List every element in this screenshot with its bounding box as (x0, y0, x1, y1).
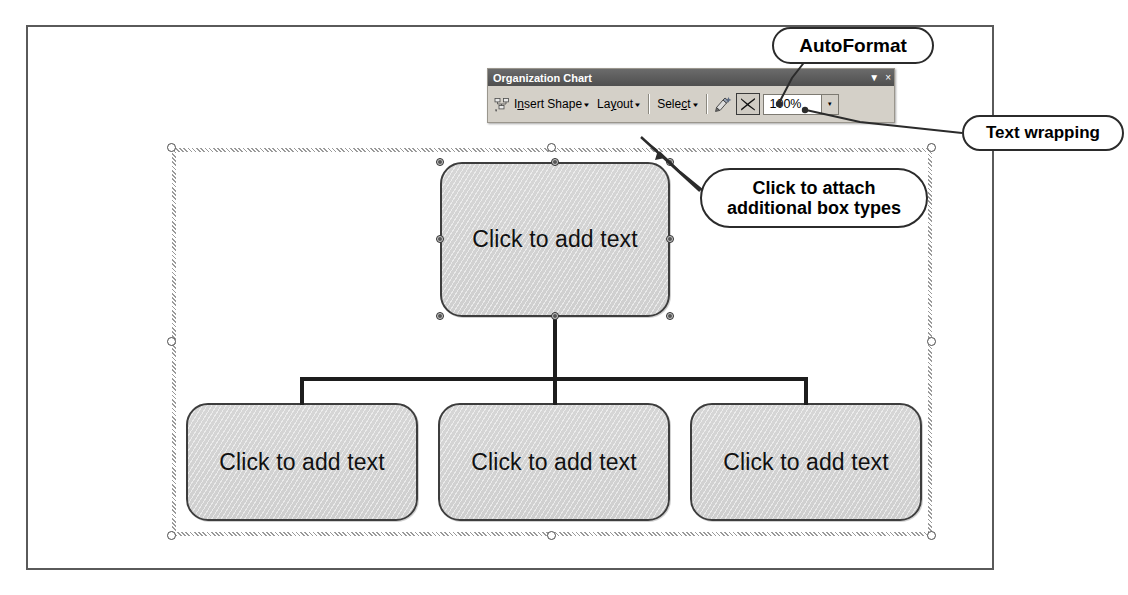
layout-button[interactable]: Layout ▾ (593, 91, 644, 117)
select-button[interactable]: Select ▾ (653, 91, 701, 117)
close-icon[interactable]: × (885, 73, 891, 83)
node-handle-middle-left[interactable] (436, 235, 444, 243)
frame-handle-bottom-right[interactable] (927, 531, 936, 540)
toolbar-buttons-row[interactable]: Insert Shape ▾ Layout ▾ Select ▾ (488, 86, 894, 122)
text-wrapping-icon (740, 97, 756, 111)
node-handle-bottom-right[interactable] (666, 312, 674, 320)
node-handle-bottom-left[interactable] (436, 312, 444, 320)
insert-shape-icon (494, 96, 511, 113)
connector-child-1-drop (553, 377, 557, 405)
org-node-child-1[interactable]: Click to add text (186, 403, 418, 521)
annotation-text-wrapping: Text wrapping (962, 115, 1124, 151)
autoformat-button[interactable] (711, 92, 736, 116)
org-node-child-1-label: Click to add text (219, 449, 384, 476)
node-handle-middle-right[interactable] (666, 235, 674, 243)
org-node-child-2[interactable]: Click to add text (438, 403, 670, 521)
connector-child-2-drop (804, 377, 808, 405)
toolbar-title: Organization Chart (493, 72, 863, 84)
connector-child-0-drop (300, 377, 304, 405)
frame-handle-top-center[interactable] (547, 143, 556, 152)
org-node-root-label: Click to add text (472, 226, 637, 253)
chevron-down-icon[interactable]: ▾ (693, 101, 699, 108)
toolbar-options-icon[interactable]: ▼ (869, 73, 879, 83)
zoom-value: 100% (764, 97, 821, 111)
annotation-attach-boxes: Click to attach additional box types (700, 168, 928, 228)
frame-handle-bottom-left[interactable] (167, 531, 176, 540)
frame-handle-middle-left[interactable] (167, 337, 176, 346)
frame-handle-top-left[interactable] (167, 143, 176, 152)
frame-handle-middle-right[interactable] (927, 337, 936, 346)
frame-handle-bottom-center[interactable] (547, 531, 556, 540)
organization-chart-toolbar[interactable]: Organization Chart ▼ × Insert Shape ▾ La… (487, 68, 895, 123)
zoom-combobox[interactable]: 100% ▾ (763, 94, 839, 115)
org-node-child-3[interactable]: Click to add text (690, 403, 922, 521)
chevron-down-icon[interactable]: ▾ (584, 101, 590, 108)
org-node-child-3-label: Click to add text (723, 449, 888, 476)
toolbar-separator (706, 94, 707, 114)
connector-root-vertical (553, 314, 557, 380)
autoformat-icon (714, 95, 733, 114)
insert-shape-label: Insert Shape (514, 97, 582, 111)
layout-label: Layout (597, 97, 633, 111)
text-wrapping-button[interactable] (736, 93, 760, 115)
chevron-down-icon[interactable]: ▾ (821, 95, 838, 114)
org-node-root[interactable]: Click to add text (440, 162, 670, 317)
select-label: Select (657, 97, 690, 111)
annotation-attach-line-2: additional box types (727, 198, 901, 218)
insert-shape-button[interactable]: Insert Shape ▾ (490, 91, 593, 117)
toolbar-separator (648, 94, 649, 114)
org-node-child-2-label: Click to add text (471, 449, 636, 476)
node-handle-top-center[interactable] (551, 158, 559, 166)
node-handle-bottom-center[interactable] (551, 312, 559, 320)
node-handle-top-left[interactable] (436, 158, 444, 166)
node-handle-top-right[interactable] (666, 158, 674, 166)
annotation-autoformat: AutoFormat (772, 27, 934, 64)
chevron-down-icon[interactable]: ▾ (635, 101, 641, 108)
frame-handle-top-right[interactable] (927, 143, 936, 152)
annotation-attach-line-1: Click to attach (727, 178, 901, 198)
toolbar-titlebar[interactable]: Organization Chart ▼ × (488, 69, 894, 86)
